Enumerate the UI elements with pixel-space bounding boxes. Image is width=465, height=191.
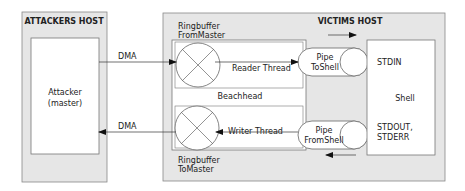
- ringbuffer-from-master-label: Ringbuffer: [178, 22, 221, 31]
- shell-label: Shell: [395, 94, 415, 103]
- dma-in-label: DMA: [118, 52, 137, 61]
- attackers-host-title: ATTACKERS HOST: [24, 17, 104, 26]
- pipe-to-shell-sublabel: ToShell: [310, 63, 339, 72]
- stdout-label: STDOUT,: [377, 123, 413, 132]
- stderr-label: STDERR: [377, 133, 410, 142]
- beachhead-label: Beachhead: [218, 92, 263, 101]
- pipe-from-shell-sublabel: FromShell: [304, 136, 343, 145]
- reader-thread-label: Reader Thread: [232, 64, 291, 73]
- victims-host-title: VICTIMS HOST: [318, 17, 383, 26]
- writer-thread-label: Writer Thread: [228, 127, 283, 136]
- ringbuffer-to-master-label: Ringbuffer: [178, 156, 221, 165]
- pipe-from-shell: Pipe FromShell: [298, 121, 368, 149]
- pipe-to-shell-label: Pipe: [317, 53, 334, 62]
- pipe-to-shell: Pipe ToShell: [298, 48, 368, 76]
- ringbuffer-to-master-icon: [175, 106, 219, 150]
- ringbuffer-from-master-sublabel: FromMaster: [178, 31, 226, 40]
- victims-host: VICTIMS HOST Beachhead Ringbuffer FromMa…: [163, 13, 445, 181]
- pipe-from-shell-label: Pipe: [316, 126, 333, 135]
- architecture-diagram: ATTACKERS HOST Attacker (master) VICTIMS…: [0, 0, 465, 191]
- attacker-label: Attacker: [48, 88, 82, 97]
- attacker-sublabel: (master): [48, 99, 82, 108]
- ringbuffer-from-master-icon: [176, 43, 220, 87]
- ringbuffer-to-master-sublabel: ToMaster: [177, 165, 214, 174]
- attackers-host: ATTACKERS HOST Attacker (master): [22, 12, 107, 182]
- stdin-label: STDIN: [377, 58, 401, 67]
- dma-out-label: DMA: [118, 122, 137, 131]
